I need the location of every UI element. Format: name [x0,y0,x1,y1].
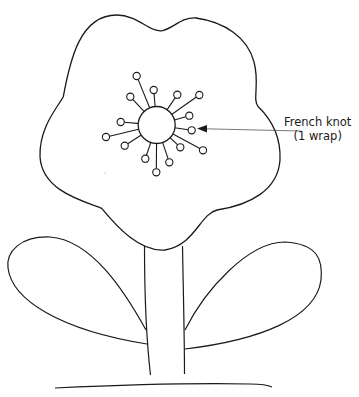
french-knot-circle [199,147,206,154]
french-knot-circle [102,133,109,140]
french-knot-circle [166,159,173,166]
arrowhead-icon [197,125,207,132]
right-leaf [185,242,321,349]
stamen-stalk [110,129,141,136]
french-knot-circle [174,91,181,98]
annotation-line-1: French knot [284,115,351,129]
stamen-stalk [162,141,168,159]
stamen-stalk [171,133,200,149]
french-knot-circle [196,91,203,98]
french-knot-circle [188,127,195,134]
speck-mark [104,172,105,173]
stem-right-line [183,246,185,374]
french-knot-circle [127,93,134,100]
flower-center-circle [138,107,175,144]
french-knot-circle [133,72,140,79]
french-knot-circle [177,144,184,151]
french-knot-circle [150,86,157,93]
french-knot-circle [186,112,193,119]
french-knot-circle [153,169,160,176]
flower-diagram [0,0,359,397]
stamen-stalk [133,99,146,113]
stamen-stalk [138,79,150,109]
annotation-line-2: (1 wrap) [284,129,351,143]
ground-line [55,384,272,388]
french-knot-circle [117,118,124,125]
stamen-stalk [128,134,143,144]
annotation-label: French knot (1 wrap) [284,115,351,143]
french-knot-circle [121,142,128,149]
left-leaf [8,237,147,344]
french-knot-circle [142,155,149,162]
stem-left-line [145,246,151,375]
